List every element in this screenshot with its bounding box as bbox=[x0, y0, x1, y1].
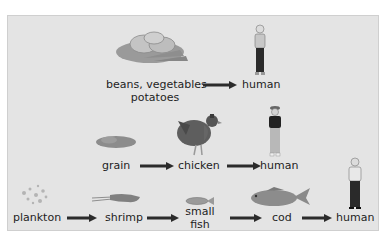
arrow-icon bbox=[147, 214, 179, 222]
arrow-icon bbox=[227, 162, 261, 170]
chain-3-node-4-label: cod bbox=[272, 211, 292, 224]
chain-3-node-2-label: shrimp bbox=[105, 211, 143, 224]
vegetables-icon bbox=[114, 30, 192, 66]
chain-2-node-3-label: human bbox=[260, 159, 298, 172]
grain-icon bbox=[95, 135, 137, 149]
plankton-icon bbox=[18, 183, 52, 207]
chain-1-node-2-label: human bbox=[242, 78, 280, 91]
chain-3-node-5-label: human bbox=[336, 211, 374, 224]
chain-2-node-1-label: grain bbox=[102, 159, 130, 172]
man-icon bbox=[346, 157, 364, 211]
woman-icon bbox=[250, 24, 270, 78]
woman-icon bbox=[266, 105, 284, 157]
arrow-icon bbox=[302, 214, 332, 222]
arrow-icon bbox=[67, 214, 97, 222]
shrimp-icon bbox=[92, 192, 142, 206]
chain-2-node-2-label: chicken bbox=[178, 159, 220, 172]
chain-3-node-3-label: small fish bbox=[184, 205, 216, 231]
arrow-icon bbox=[203, 81, 237, 89]
chain-3-node-1-label: plankton bbox=[13, 211, 61, 224]
arrow-icon bbox=[140, 162, 174, 170]
chain-1-node-1-label: beans, vegetables potatoes bbox=[106, 78, 204, 104]
arrow-icon bbox=[230, 214, 262, 222]
cod-icon bbox=[250, 185, 312, 209]
chicken-icon bbox=[174, 111, 222, 159]
